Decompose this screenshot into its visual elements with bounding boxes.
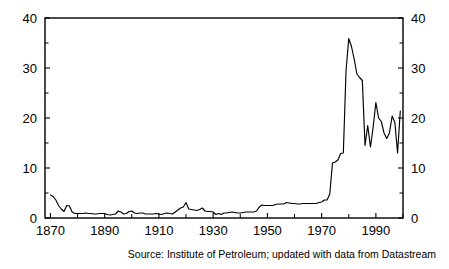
right-axis-ticks [398,18,403,218]
bottom-tick-label: 1930 [199,223,228,238]
left-axis-tick-labels: 010203040 [23,11,37,226]
bottom-tick-label: 1870 [36,223,65,238]
bottom-tick-label: 1990 [361,223,390,238]
bottom-axis-tick-labels: 1870189019101930195019701990 [36,223,390,238]
left-tick-label: 10 [23,161,37,176]
left-tick-label: 20 [23,111,37,126]
right-tick-label: 40 [411,11,425,26]
bottom-tick-label: 1910 [144,223,173,238]
right-tick-label: 10 [411,161,425,176]
source-note: Source: Institute of Petroleum; updated … [128,248,436,260]
right-tick-label: 0 [411,211,418,226]
left-tick-label: 40 [23,11,37,26]
bottom-tick-label: 1970 [307,223,336,238]
plot-area-frame [45,18,403,218]
right-tick-label: 20 [411,111,425,126]
left-tick-label: 30 [23,61,37,76]
bottom-tick-label: 1890 [90,223,119,238]
left-axis-ticks [45,18,50,218]
bottom-tick-label: 1950 [253,223,282,238]
right-axis-tick-labels: 010203040 [411,11,425,226]
oil-price-line-series [50,39,400,216]
chart-canvas: 010203040 010203040 18701890191019301950… [0,0,449,269]
oil-price-chart-figure: 010203040 010203040 18701890191019301950… [0,0,449,269]
right-tick-label: 30 [411,61,425,76]
